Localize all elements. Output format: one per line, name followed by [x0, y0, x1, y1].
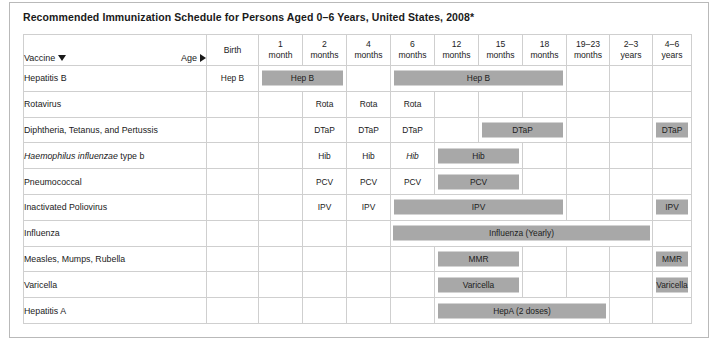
cell-pcv-18-months[interactable]: [523, 169, 567, 195]
cell-hepb-2-3-years[interactable]: [610, 66, 653, 92]
cell-ipv-1-month[interactable]: [259, 194, 303, 220]
cell-pcv-2-months[interactable]: PCV: [303, 169, 347, 195]
cell-var-birth[interactable]: [207, 272, 259, 298]
cell-hib-19-23-months[interactable]: [567, 143, 610, 169]
cell-rota-19-23-months[interactable]: [567, 91, 610, 117]
cell-mmr-2-3-years[interactable]: [610, 246, 653, 272]
cell-mmr-18-months[interactable]: [523, 246, 567, 272]
cell-dtap-15-18-months[interactable]: DTaP: [479, 117, 567, 143]
cell-hib-1-month[interactable]: [259, 143, 303, 169]
cell-pcv-2-3-years[interactable]: [610, 169, 653, 195]
cell-ipv-4-months[interactable]: IPV: [347, 194, 391, 220]
cell-flu-1-month[interactable]: [259, 220, 303, 246]
cell-hepa-4-6-years[interactable]: [653, 298, 692, 324]
cell-hepb-4-months[interactable]: [347, 66, 391, 92]
cell-ipv-2-3-years[interactable]: [610, 194, 653, 220]
cell-pcv-1-month[interactable]: [259, 169, 303, 195]
cell-ipv-4-6-years[interactable]: IPV: [653, 194, 692, 220]
cell-pcv-6-months[interactable]: PCV: [391, 169, 435, 195]
cell-var-19-23-months[interactable]: [567, 272, 610, 298]
cell-ipv-2-months[interactable]: IPV: [303, 194, 347, 220]
cell-mmr-2-months[interactable]: [303, 246, 347, 272]
cell-dtap-6-months[interactable]: DTaP: [391, 117, 435, 143]
cell-flu-birth[interactable]: [207, 220, 259, 246]
cell-rota-18-months[interactable]: [523, 91, 567, 117]
vaccine-sort-control[interactable]: Vaccine: [24, 53, 66, 65]
cell-var-4-6-years[interactable]: Varicella: [653, 272, 692, 298]
cell-hib-6-months[interactable]: Hib: [391, 143, 435, 169]
vaccine-column-label: Vaccine: [24, 53, 55, 64]
cell-rota-2-3-years[interactable]: [610, 91, 653, 117]
cell-ipv-birth[interactable]: [207, 194, 259, 220]
cell-hepb-birth[interactable]: Hep B: [207, 66, 259, 92]
cell-rota-birth[interactable]: [207, 91, 259, 117]
cell-hepb-4-6-years[interactable]: [653, 66, 692, 92]
cell-flu-4-months[interactable]: [347, 220, 391, 246]
cell-hepa-1-month[interactable]: [259, 298, 303, 324]
cell-mmr-1-month[interactable]: [259, 246, 303, 272]
cell-var-18-months[interactable]: [523, 272, 567, 298]
cell-hib-4-6-years[interactable]: [653, 143, 692, 169]
cell-dtap-4-6-years[interactable]: DTaP: [653, 117, 692, 143]
cell-hib-2-months[interactable]: Hib: [303, 143, 347, 169]
cell-hepb-19-23-months[interactable]: [567, 66, 610, 92]
cell-rota-1-month[interactable]: [259, 91, 303, 117]
cell-pcv-12-15-months[interactable]: PCV: [435, 169, 523, 195]
cell-hepa-4-months[interactable]: [347, 298, 391, 324]
cell-hepa-6-months[interactable]: [391, 298, 435, 324]
cell-hepa-2-3-years[interactable]: [610, 298, 653, 324]
cell-var-4-months[interactable]: [347, 272, 391, 298]
cell-hepa-birth[interactable]: [207, 298, 259, 324]
cell-pcv-4-months[interactable]: PCV: [347, 169, 391, 195]
cell-pcv-19-23-months[interactable]: [567, 169, 610, 195]
age-column-header-2-months: 2 months: [303, 35, 347, 66]
age-header-line1: 15: [479, 39, 522, 50]
cell-mmr-4-months[interactable]: [347, 246, 391, 272]
dose-bar: IPV: [394, 200, 563, 215]
cell-rota-4-months[interactable]: Rota: [347, 91, 391, 117]
cell-rota-15-months[interactable]: [479, 91, 523, 117]
cell-mmr-6-months[interactable]: [391, 246, 435, 272]
age-sort-control[interactable]: Age: [181, 53, 206, 65]
cell-dtap-19-23-months[interactable]: [567, 117, 610, 143]
table-row: Influenza Influenza (Yearly): [24, 220, 692, 246]
cell-rota-2-months[interactable]: Rota: [303, 91, 347, 117]
cell-dtap-1-month[interactable]: [259, 117, 303, 143]
cell-hib-birth[interactable]: [207, 143, 259, 169]
cell-dtap-2-3-years[interactable]: [610, 117, 653, 143]
age-header-line2: years: [653, 50, 691, 61]
cell-hib-12-15-months[interactable]: Hib: [435, 143, 523, 169]
cell-pcv-4-6-years[interactable]: [653, 169, 692, 195]
cell-hepb-1-2-months[interactable]: Hep B: [259, 66, 347, 92]
cell-rota-12-months[interactable]: [435, 91, 479, 117]
cell-mmr-12-15-months[interactable]: MMR: [435, 246, 523, 272]
cell-flu-4-6-years[interactable]: [653, 220, 692, 246]
cell-var-1-month[interactable]: [259, 272, 303, 298]
cell-pcv-birth[interactable]: [207, 169, 259, 195]
cell-var-6-months[interactable]: [391, 272, 435, 298]
cell-dtap-12-months[interactable]: [435, 117, 479, 143]
cell-mmr-4-6-years[interactable]: MMR: [653, 246, 692, 272]
cell-rota-4-6-years[interactable]: [653, 91, 692, 117]
cell-var-12-15-months[interactable]: Varicella: [435, 272, 523, 298]
cell-var-2-3-years[interactable]: [610, 272, 653, 298]
cell-dtap-2-months[interactable]: DTaP: [303, 117, 347, 143]
cell-hib-18-months[interactable]: [523, 143, 567, 169]
dose-label: Hep B: [207, 73, 258, 83]
cell-dtap-birth[interactable]: [207, 117, 259, 143]
cell-mmr-birth[interactable]: [207, 246, 259, 272]
cell-dtap-4-months[interactable]: DTaP: [347, 117, 391, 143]
cell-var-2-months[interactable]: [303, 272, 347, 298]
cell-flu-2-months[interactable]: [303, 220, 347, 246]
cell-hib-4-months[interactable]: Hib: [347, 143, 391, 169]
cell-ipv-19-23-months[interactable]: [567, 194, 610, 220]
cell-hepb-6-18-months[interactable]: Hep B: [391, 66, 567, 92]
cell-mmr-19-23-months[interactable]: [567, 246, 610, 272]
cell-ipv-6-18-months[interactable]: IPV: [391, 194, 567, 220]
cell-hepa-2-months[interactable]: [303, 298, 347, 324]
cell-hepa-12-months-to-19-23-months[interactable]: HepA (2 doses): [435, 298, 610, 324]
cell-flu-6-months-to-3-years[interactable]: Influenza (Yearly): [391, 220, 653, 246]
cell-hib-2-3-years[interactable]: [610, 143, 653, 169]
cell-rota-6-months[interactable]: Rota: [391, 91, 435, 117]
age-header-line2: months: [347, 50, 390, 61]
